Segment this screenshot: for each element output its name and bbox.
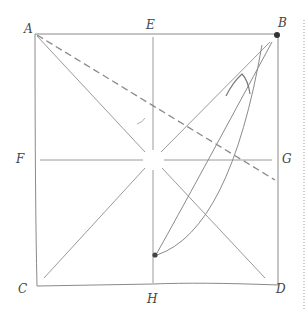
diagonal-B-C	[161, 42, 270, 152]
curve-inner	[157, 45, 262, 255]
label-E: E	[146, 18, 155, 32]
point-B-dot	[274, 32, 280, 38]
label-F: F	[16, 152, 24, 166]
label-B: B	[278, 16, 287, 30]
dashed-fold-line	[37, 35, 275, 180]
arrow-head-icon	[226, 74, 250, 96]
diagonal-A-D	[37, 36, 145, 152]
diagram-canvas	[0, 0, 305, 310]
fold-tick-mark	[137, 118, 145, 124]
diagonal-B-C-lower	[44, 168, 145, 278]
label-H: H	[147, 292, 157, 306]
diagonal-A-D-lower	[162, 168, 265, 278]
curve-outer	[157, 42, 272, 253]
label-C: C	[18, 282, 27, 296]
label-A: A	[24, 22, 33, 36]
label-D: D	[276, 282, 286, 296]
point-inner-dot	[152, 252, 157, 257]
label-G: G	[282, 152, 292, 166]
